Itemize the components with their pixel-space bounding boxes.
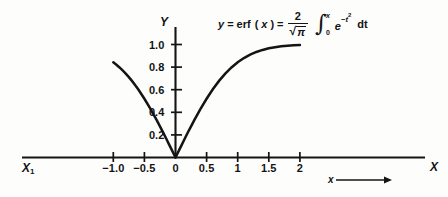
y-tick-label: 0.8 (137, 61, 165, 73)
equation-integrand: e−t2 (335, 17, 351, 32)
equation-paren-close: ) (270, 18, 274, 30)
equation-annotation: y = erf ( x ) = 2 √ π ∫ x 0 e−t2 dt (218, 11, 368, 38)
equation-integral-group: ∫ x 0 (315, 13, 330, 35)
equation-lhs: y (218, 18, 224, 30)
y-tick-label: 0.2 (137, 129, 165, 141)
equation-erf-name: erf (237, 18, 251, 30)
sqrt-radical-icon: √ (290, 25, 297, 37)
y-tick-label: 0.6 (137, 84, 165, 96)
integrand-exponent-power: 2 (348, 12, 351, 18)
fraction-denominator: √ π (288, 23, 308, 38)
x-tick-label: 2 (283, 162, 317, 174)
x-direction-annotation: x (328, 174, 392, 185)
equation-paren-open: ( (255, 18, 259, 30)
integral-upper-limit: x (326, 12, 330, 19)
fraction-numerator: 2 (293, 11, 303, 23)
y-tick-label: 1.0 (137, 39, 165, 51)
erf-curve-positive-branch (176, 45, 300, 157)
equation-fraction-two-over-sqrt-pi: 2 √ π (288, 11, 308, 38)
x-sub-1-base: X (22, 161, 30, 175)
y-tick-label: 0.4 (137, 106, 165, 118)
sqrt-radicand-pi: π (296, 26, 306, 38)
x-tick-label: 1.5 (252, 162, 286, 174)
x-sub-1-label: X1 (22, 161, 35, 176)
equation-equals-1: = (227, 18, 233, 30)
x-tick-label: 0 (159, 162, 193, 174)
figure-erf-plot: Y X X1 −1.0−0.500.511.52 0.20.40.60.81.0… (0, 0, 448, 197)
x-axis-name: X (430, 160, 438, 174)
equation-differential: dt (357, 18, 367, 30)
x-sub-1-subscript: 1 (30, 167, 35, 176)
equation-equals-2: = (277, 18, 283, 30)
sqrt-group: √ π (290, 25, 306, 38)
x-direction-label: x (328, 174, 334, 185)
y-axis-name: Y (160, 15, 168, 29)
x-tick-label: 1 (221, 162, 255, 174)
right-arrow-icon (336, 175, 392, 185)
equation-erf-argument: x (261, 18, 267, 30)
x-tick-label: 0.5 (190, 162, 224, 174)
integral-lower-limit: 0 (326, 29, 330, 36)
x-tick-label: −1.0 (96, 162, 130, 174)
x-tick-label: −0.5 (127, 162, 161, 174)
integrand-exponent: −t2 (341, 15, 351, 24)
